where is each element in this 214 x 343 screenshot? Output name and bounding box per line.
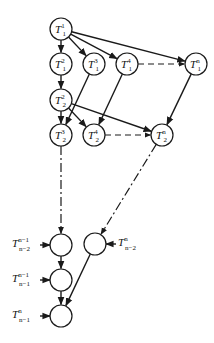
node-T23: T32	[50, 124, 72, 146]
node-T11: T11	[50, 18, 72, 40]
external-label-B3: Tn−1n−1	[12, 271, 50, 288]
edge-T11-to-T13	[69, 37, 87, 56]
node-circle	[50, 269, 72, 291]
external-label-B2: Tnn−2	[106, 235, 136, 252]
node-T12: T21	[50, 53, 72, 75]
task-dependency-diagram: T11T21T31T41Tn1T22T32T42Tn2 Tn−1n−2Tnn−2…	[0, 0, 214, 343]
node-circle	[50, 234, 72, 256]
node-circle	[84, 233, 106, 255]
node-T14: T41	[116, 53, 138, 75]
node-B1	[50, 234, 72, 256]
edge-T22-to-T2n	[71, 104, 151, 132]
external-label-text: Tn−1n−1	[12, 271, 30, 288]
node-B2	[84, 233, 106, 255]
edge-T1n-to-T2n	[167, 74, 191, 125]
node-T2n: Tn2	[151, 124, 173, 146]
external-label-text: Tn−1n−2	[12, 236, 30, 253]
node-T13: T31	[83, 53, 105, 75]
node-B3	[50, 269, 72, 291]
node-T24: T42	[83, 124, 105, 146]
node-T22: T22	[50, 89, 72, 111]
node-B4	[50, 305, 72, 327]
external-label-B4: Tnn−1	[12, 307, 50, 324]
external-label-text: Tnn−1	[12, 307, 30, 324]
edge-T2n-to-B2	[101, 144, 156, 234]
external-labels-layer: Tn−1n−2Tnn−2Tn−1n−1Tnn−1	[12, 235, 136, 324]
node-circle	[50, 305, 72, 327]
external-label-B1: Tn−1n−2	[12, 236, 50, 253]
node-T1n: Tn1	[185, 53, 207, 75]
external-label-text: Tnn−2	[118, 235, 136, 252]
edge-T22-to-T24	[69, 108, 87, 127]
